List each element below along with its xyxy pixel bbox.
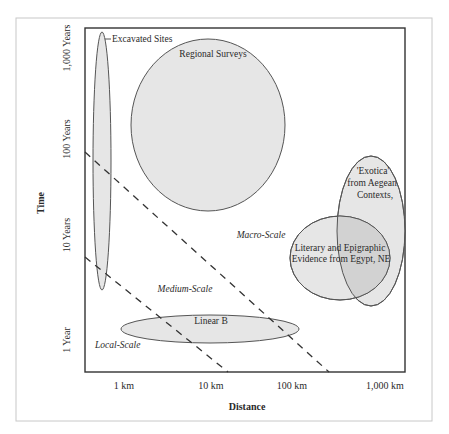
x-tick-label: 1,000 km xyxy=(366,380,404,391)
y-tick-label: 1 Year xyxy=(61,327,72,353)
x-tick-label: 100 km xyxy=(277,380,308,391)
x-axis-title: Distance xyxy=(229,401,266,412)
exotica-label-line-1: 'Exotica' xyxy=(357,166,390,176)
y-axis-title: Time xyxy=(35,191,46,214)
y-tick-label: 100 Years xyxy=(61,119,72,159)
regional-surveys-label: Regional Surveys xyxy=(179,49,247,59)
scale-diagram: Excavated Sites Regional Surveys 'Exotic… xyxy=(0,0,449,434)
macro-scale-label: Macro-Scale xyxy=(236,230,286,240)
literary-evidence-label-line-1: Literary and Epigraphic xyxy=(295,243,386,253)
medium-scale-label: Medium-Scale xyxy=(157,284,213,294)
x-tick-label: 10 km xyxy=(198,380,224,391)
x-tick-label: 1 km xyxy=(114,380,135,391)
exotica-label-line-3: Contexts, xyxy=(357,190,393,200)
linear-b-label: Linear B xyxy=(194,316,228,326)
y-tick-label: 1,000 Years xyxy=(61,24,72,71)
y-tick-label: 10 Years xyxy=(61,218,72,253)
exotica-label-line-2: from Aegean xyxy=(347,178,397,188)
literary-evidence-label-line-2: Evidence from Egypt, NE xyxy=(292,254,391,264)
excavated-sites-label: Excavated Sites xyxy=(112,34,173,44)
regional-surveys-region xyxy=(131,39,285,211)
local-scale-label: Local-Scale xyxy=(94,340,140,350)
